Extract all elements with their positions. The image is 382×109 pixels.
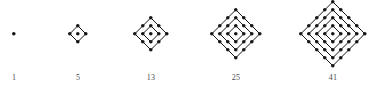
lattice-dot (347, 32, 351, 36)
diamond-edge (159, 34, 167, 42)
diamond-edge (325, 26, 333, 34)
lattice-dot (347, 24, 351, 28)
lattice-dot (76, 32, 80, 36)
diamond-edge (228, 18, 236, 26)
lattice-dot (331, 0, 335, 4)
diamond-edge (143, 26, 151, 34)
diamond-edge (301, 26, 309, 34)
diamond-edge (236, 18, 244, 26)
diamond-edge (78, 34, 86, 42)
lattice-dot (218, 24, 222, 28)
diamond-edge (244, 26, 252, 34)
diamond-edge (325, 34, 333, 42)
diamond-edge (244, 42, 252, 50)
lattice-dot (165, 32, 169, 36)
figure-label-25: 25 (206, 73, 266, 83)
dot-diamond-5 (66, 22, 90, 46)
diamond-edge (325, 58, 333, 66)
lattice-dot (141, 32, 145, 36)
centered-square-numbers-figure: 15132541 (0, 0, 382, 109)
diamond-edge (70, 26, 78, 34)
diamond-edge (220, 18, 228, 26)
diamond-edge (228, 26, 236, 34)
lattice-dot (157, 24, 161, 28)
diamond-edge (333, 34, 341, 42)
diamond-edge (143, 34, 151, 42)
diamond-edge (325, 50, 333, 58)
lattice-dot (234, 16, 238, 20)
diamond-edge (325, 18, 333, 26)
diamond-edge (220, 26, 228, 34)
diamond-edge (236, 26, 244, 34)
lattice-dot (339, 48, 343, 52)
lattice-dot (157, 40, 161, 44)
diamond-edge (151, 42, 159, 50)
diamond-edge (143, 18, 151, 26)
diamond-edge (317, 18, 325, 26)
diamond-edge (341, 34, 349, 42)
lattice-dot (323, 8, 327, 12)
diamond-edge (236, 50, 244, 58)
lattice-dot (315, 48, 319, 52)
lattice-dot (315, 40, 319, 44)
diamond-edge (301, 34, 309, 42)
diamond-edge (244, 34, 252, 42)
diamond-edge (317, 10, 325, 18)
diamond-edge (236, 42, 244, 50)
lattice-dot (331, 56, 335, 60)
lattice-dot (339, 40, 343, 44)
diamond-edge (333, 10, 341, 18)
figure-label-1: 1 (0, 73, 44, 83)
diamond-edge (341, 42, 349, 50)
diamond-edge (151, 34, 159, 42)
diamond-edge (333, 50, 341, 58)
lattice-dot (68, 32, 72, 36)
lattice-dot (331, 24, 335, 28)
lattice-dot (242, 40, 246, 44)
diamond-edge (212, 26, 220, 34)
lattice-dot (218, 32, 222, 36)
lattice-dot (234, 56, 238, 60)
lattice-dot (76, 24, 80, 28)
lattice-dot (242, 32, 246, 36)
lattice-dot (141, 24, 145, 28)
lattice-dot (355, 32, 359, 36)
diamond-edge (228, 10, 236, 18)
lattice-dot (149, 24, 153, 28)
lattice-dot (323, 40, 327, 44)
diamond-edge (341, 50, 349, 58)
lattice-dot (250, 40, 254, 44)
diamond-edge (341, 18, 349, 26)
lattice-dot (339, 32, 343, 36)
diamond-edge (252, 26, 260, 34)
lattice-dot (218, 40, 222, 44)
diamond-edge (317, 26, 325, 34)
lattice-dot (149, 48, 153, 52)
diamond-edge (333, 26, 341, 34)
diamond-edge (220, 42, 228, 50)
diamond-edge (212, 34, 220, 42)
lattice-dot (234, 8, 238, 12)
dot-diamond-1 (10, 30, 18, 38)
diamond-edge (333, 58, 341, 66)
lattice-dot (250, 32, 254, 36)
diamond-edge (357, 34, 365, 42)
diamond-edge (228, 42, 236, 50)
lattice-dot (234, 24, 238, 28)
lattice-dot (323, 56, 327, 60)
lattice-dot (149, 32, 153, 36)
lattice-dot (315, 16, 319, 20)
diamond-edge (341, 10, 349, 18)
diamond-edge (135, 34, 143, 42)
dot-diamond-41 (297, 0, 369, 70)
lattice-dot (242, 24, 246, 28)
lattice-dot (355, 40, 359, 44)
lattice-dot (339, 8, 343, 12)
diamond-edge (317, 50, 325, 58)
diamond-edge (325, 10, 333, 18)
lattice-dot (226, 32, 230, 36)
figure-label-13: 13 (121, 73, 181, 83)
diamond-edge (309, 34, 317, 42)
lattice-dot (315, 24, 319, 28)
diamond-edge (349, 34, 357, 42)
